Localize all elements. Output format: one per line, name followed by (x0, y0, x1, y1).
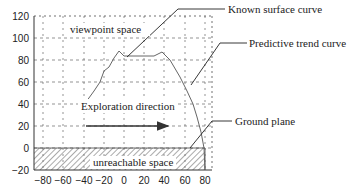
y-axis-labels: 120 100 80 60 40 20 0 −20 (12, 11, 29, 176)
predictive-trend-leader (191, 43, 247, 85)
x-tick-label: 20 (138, 175, 150, 186)
predictive-trend-callout: Predictive trend curve (249, 37, 346, 49)
diagram-canvas: 120 100 80 60 40 20 0 −20 −80 −60 −40 −2… (0, 0, 352, 194)
axes-frame (34, 16, 212, 170)
grid (34, 16, 212, 170)
x-tick-label: 80 (199, 175, 211, 186)
x-tick-label: 60 (179, 175, 191, 186)
y-tick-label: 120 (12, 11, 29, 22)
x-tick-label: 40 (158, 175, 170, 186)
x-tick-label: −20 (96, 175, 113, 186)
y-tick-label: 100 (12, 33, 29, 44)
unreachable-space-label: unreachable space (93, 156, 173, 168)
x-axis-labels: −80 −60 −40 −20 0 20 40 60 80 (35, 175, 211, 186)
ground-plane-callout: Ground plane (235, 115, 295, 127)
ground-plane-leader (190, 121, 232, 148)
y-tick-label: 80 (18, 55, 30, 66)
exploration-direction-label: Exploration direction (81, 100, 175, 112)
y-tick-label: 20 (18, 121, 30, 132)
x-tick-label: −40 (76, 175, 93, 186)
viewpoint-space-label: viewpoint space (70, 23, 141, 35)
known-surface-callout: Known surface curve (228, 3, 322, 15)
y-tick-label: 60 (18, 77, 30, 88)
y-tick-label: −20 (12, 165, 29, 176)
y-tick-label: 0 (23, 143, 29, 154)
x-tick-label: −80 (35, 175, 52, 186)
x-tick-label: −60 (55, 175, 72, 186)
y-tick-label: 40 (18, 99, 30, 110)
x-tick-label: 0 (121, 175, 127, 186)
